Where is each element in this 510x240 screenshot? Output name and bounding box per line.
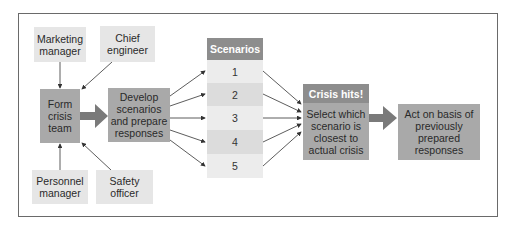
big-arrow-2: [369, 106, 397, 130]
safety-officer-box: Safety officer: [96, 170, 153, 204]
marketing-manager-box: Marketing manager: [34, 27, 86, 62]
big-arrow-1: [80, 104, 108, 128]
form-crisis-team-box: Form crisis team: [40, 89, 80, 143]
scenario-5: 5: [207, 154, 263, 178]
scenario-4: 4: [207, 130, 263, 154]
chief-engineer-box: Chief engineer: [100, 26, 155, 62]
crisis-hits-header: Crisis hits!: [303, 84, 369, 103]
scenario-2: 2: [207, 83, 263, 106]
scenarios-header: Scenarios: [207, 38, 263, 60]
personnel-manager-box: Personnel manager: [32, 170, 88, 204]
scenario-3: 3: [207, 106, 263, 130]
act-on-responses-box: Act on basis of previously prepared resp…: [398, 104, 480, 160]
scenario-1: 1: [207, 60, 263, 83]
select-scenario-box: Select which scenario is closest to actu…: [303, 103, 369, 160]
develop-scenarios-box: Develop scenarios and prepare responses: [108, 88, 170, 142]
